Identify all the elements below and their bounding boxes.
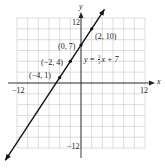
- x-axis-arrow-icon: [149, 81, 155, 86]
- data-point: [69, 60, 72, 63]
- data-point: [90, 27, 93, 30]
- x-axis-label: x: [157, 78, 161, 86]
- x-max-tick-label: 12: [140, 87, 148, 95]
- x-min-tick-label: −12: [12, 87, 25, 95]
- equation-label: y = 3 2 x + 7: [84, 54, 118, 65]
- data-point: [79, 43, 82, 46]
- x-axis: [8, 81, 155, 86]
- equation-suffix: x + 7: [101, 56, 118, 64]
- line-series: [5, 9, 104, 160]
- equation-prefix: y =: [84, 56, 97, 64]
- line-arrow-icon: [99, 9, 104, 15]
- y-max-tick-label: 12: [72, 19, 80, 27]
- point-label-neg2-4: (−2, 4): [41, 59, 63, 67]
- data-point: [58, 76, 61, 79]
- y-axis-label: y: [79, 3, 83, 11]
- y-axis: [79, 12, 84, 158]
- point-label-0-7: (0, 7): [58, 43, 75, 51]
- point-label-neg4-1: (−4, 1): [29, 72, 51, 80]
- point-label-2-10: (2, 10): [95, 33, 116, 41]
- coordinate-plane: [0, 0, 165, 168]
- y-min-tick-label: −12: [67, 143, 80, 151]
- line-arrow-icon: [5, 154, 10, 160]
